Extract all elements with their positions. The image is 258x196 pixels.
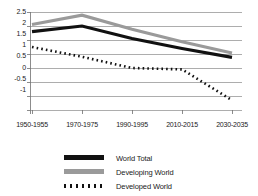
legend-item-developing-world: Developing World xyxy=(62,165,252,179)
chart-plot-area: 2.5 2 1.5 1 0.5 0 -0.5 -1 1950-1955 1970… xyxy=(0,0,258,140)
legend-swatch-world-total xyxy=(62,152,106,164)
legend-item-world-total: World Total xyxy=(62,151,252,165)
dotted-black-line-swatch xyxy=(64,184,104,188)
legend-swatch-developing-world xyxy=(62,166,106,178)
gridlines xyxy=(30,12,242,110)
solid-gray-line-swatch xyxy=(64,169,104,174)
solid-black-line-swatch xyxy=(64,155,104,160)
chart-canvas xyxy=(0,0,258,140)
x-axis-ticks xyxy=(32,110,232,114)
legend-label-developing-world: Developing World xyxy=(116,168,173,177)
chart-legend: World Total Developing World Developed W… xyxy=(62,151,252,193)
legend-swatch-developed-world xyxy=(62,180,106,192)
series-line-developed-world xyxy=(32,47,232,100)
series-line-developing-world xyxy=(32,15,232,53)
chart-screenshot: 2.5 2 1.5 1 0.5 0 -0.5 -1 1950-1955 1970… xyxy=(0,0,258,196)
legend-label-developed-world: Developed World xyxy=(116,182,172,191)
y-axis-ticks xyxy=(27,12,30,110)
legend-item-developed-world: Developed World xyxy=(62,179,252,193)
legend-label-world-total: World Total xyxy=(116,154,152,163)
